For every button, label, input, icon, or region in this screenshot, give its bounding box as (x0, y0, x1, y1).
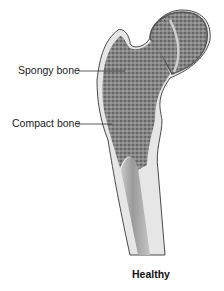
spongy-bone-label: Spongy bone (18, 64, 80, 76)
femur-diagram (0, 0, 224, 291)
compact-bone-label: Compact bone (12, 117, 80, 129)
caption-healthy: Healthy (132, 268, 170, 280)
